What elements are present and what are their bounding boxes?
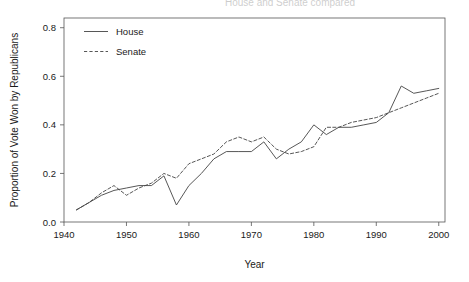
series-line-house [76,86,438,210]
y-tick-label: 0.0 [43,217,56,228]
x-tick-label: 1980 [303,229,324,240]
x-tick-label: 1970 [241,229,262,240]
x-tick-label: 2000 [428,229,449,240]
y-tick-label: 0.2 [43,168,56,179]
legend-label-senate: Senate [116,46,146,57]
x-axis-title: Year [244,259,265,270]
series-line-senate [76,93,438,210]
y-tick-label: 0.4 [43,119,56,130]
chart-title: House and Senate compared [225,0,355,8]
legend-label-house: House [116,26,143,37]
x-tick-label: 1950 [116,229,137,240]
x-tick-label: 1960 [178,229,199,240]
x-tick-label: 1940 [53,229,74,240]
y-axis-title: Proportion of Vote Won by Republicans [9,33,20,207]
y-tick-label: 0.6 [43,71,56,82]
chart-figure: House and Senate compared 0.00.20.40.60.… [0,0,469,282]
line-chart: House and Senate compared 0.00.20.40.60.… [0,0,469,282]
x-tick-label: 1990 [366,229,387,240]
y-axis-ticks: 0.00.20.40.60.8 [43,22,64,227]
chart-legend: House Senate [84,26,146,57]
y-tick-label: 0.8 [43,22,56,33]
x-axis-ticks: 1940195019601970198019902000 [53,222,449,240]
